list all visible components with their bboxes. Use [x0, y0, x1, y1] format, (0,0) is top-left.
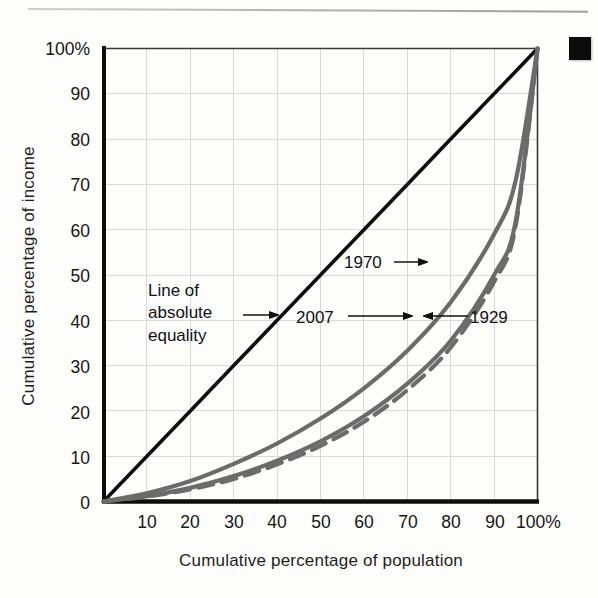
y-tick-0: 0 — [34, 493, 90, 514]
equality-annotation-line-2: absolute — [148, 302, 212, 324]
y-tick-30: 30 — [34, 357, 90, 378]
y-tick-20: 20 — [34, 403, 90, 424]
series-label-2007: 2007 — [296, 307, 334, 329]
y-tick-80: 80 — [34, 130, 90, 151]
x-tick-80: 80 — [427, 512, 475, 533]
y-tick-90: 90 — [34, 84, 90, 105]
x-axis-title: Cumulative percentage of population — [103, 551, 539, 571]
x-tick-90: 90 — [471, 512, 519, 533]
lorenz-curve-figure-page: Cumulative percentage of income Cumulati… — [0, 0, 598, 598]
equality-line-annotation: Line of absolute equality — [148, 280, 212, 347]
x-tick-100: 100% — [516, 512, 574, 533]
x-tick-30: 30 — [210, 512, 258, 533]
x-tick-10: 10 — [123, 512, 171, 533]
x-tick-60: 60 — [340, 512, 388, 533]
equality-annotation-line-1: Line of — [148, 280, 212, 302]
x-tick-20: 20 — [166, 512, 214, 533]
y-tick-60: 60 — [34, 221, 90, 242]
y-tick-10: 10 — [34, 448, 90, 469]
equality-annotation-line-3: equality — [148, 325, 212, 347]
x-tick-40: 40 — [253, 512, 301, 533]
y-tick-70: 70 — [34, 175, 90, 196]
x-tick-50: 50 — [297, 512, 345, 533]
series-label-1929: 1929 — [470, 307, 508, 329]
x-tick-70: 70 — [384, 512, 432, 533]
series-label-1970: 1970 — [344, 252, 382, 274]
chart-figure: Cumulative percentage of income Cumulati… — [0, 0, 598, 598]
y-tick-40: 40 — [34, 312, 90, 333]
y-tick-100: 100% — [34, 39, 90, 60]
y-tick-50: 50 — [34, 266, 90, 287]
